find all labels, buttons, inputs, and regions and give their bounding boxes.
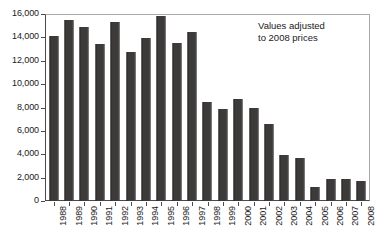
y-axis-tick-label: 16,000 — [0, 9, 39, 18]
bar — [172, 43, 181, 201]
chart-title — [0, 0, 375, 4]
y-axis-tick-label: 12,000 — [0, 56, 39, 65]
bar — [326, 179, 335, 201]
bar-slot — [92, 15, 107, 201]
y-axis-labels: 02,0004,0006,0008,00010,00012,00014,0001… — [0, 14, 39, 201]
bar — [341, 179, 350, 201]
x-axis-tick-label: 1995 — [166, 206, 176, 239]
bar — [126, 52, 135, 201]
x-axis-tick-label: 1991 — [104, 206, 114, 239]
bar — [49, 36, 58, 201]
x-axis-tick-label: 1993 — [135, 206, 145, 239]
x-axis-tick-label: 2008 — [366, 206, 375, 239]
bar-slot — [169, 15, 184, 201]
bar — [218, 109, 227, 201]
bar-slot — [338, 15, 353, 201]
y-axis-tick-label: 14,000 — [0, 32, 39, 41]
bar-slot — [61, 15, 76, 201]
x-axis-tick-label: 2006 — [335, 206, 345, 239]
bar-slot — [154, 15, 169, 201]
x-axis-tick-label: 2004 — [304, 206, 314, 239]
annotation-note: Values adjusted to 2008 prices — [258, 20, 325, 44]
bar-slot — [138, 15, 153, 201]
bar-slot — [46, 15, 61, 201]
x-axis-tick-label: 1997 — [197, 206, 207, 239]
bar-slot — [231, 15, 246, 201]
y-axis-tick-label: 0 — [0, 196, 39, 205]
bar-slot — [354, 15, 369, 201]
bar — [280, 155, 289, 202]
bar-slot — [77, 15, 92, 201]
bar — [188, 32, 197, 201]
bar — [203, 102, 212, 201]
x-axis-tick-label: 1999 — [227, 206, 237, 239]
y-axis-tick-label: 2,000 — [0, 173, 39, 182]
x-axis-tick-label: 2007 — [350, 206, 360, 239]
bar-slot — [184, 15, 199, 201]
bar-slot — [123, 15, 138, 201]
bar-slot — [200, 15, 215, 201]
bar — [234, 99, 243, 201]
x-axis-tick-label: 1988 — [58, 206, 68, 239]
bar-slot — [323, 15, 338, 201]
x-axis-tick-label: 1992 — [120, 206, 130, 239]
bar — [141, 38, 150, 201]
y-axis-tick-label: 6,000 — [0, 126, 39, 135]
x-axis-tick-label: 1989 — [74, 206, 84, 239]
x-axis-tick-label: 1998 — [212, 206, 222, 239]
x-axis-tick-label: 2000 — [243, 206, 253, 239]
x-axis-labels: 1988198919901991199219931994199519961997… — [46, 206, 369, 239]
bar — [95, 44, 104, 201]
x-axis-tick-label: 1994 — [150, 206, 160, 239]
bar — [80, 27, 89, 201]
bar — [249, 108, 258, 201]
x-axis-tick-label: 2003 — [289, 206, 299, 239]
bar — [157, 16, 166, 201]
bar — [65, 20, 74, 201]
bar — [311, 187, 320, 201]
y-axis-tick-label: 4,000 — [0, 149, 39, 158]
y-axis-tick-label: 8,000 — [0, 103, 39, 112]
x-axis-tick-label: 1990 — [89, 206, 99, 239]
x-axis-tick-label: 1996 — [181, 206, 191, 239]
x-axis-tick-label: 2001 — [258, 206, 268, 239]
y-axis-tick-label: 10,000 — [0, 79, 39, 88]
bar — [265, 124, 274, 201]
bar-chart-figure: 02,0004,0006,0008,00010,00012,00014,0001… — [0, 0, 375, 239]
bar — [295, 158, 304, 201]
x-axis-tick-label: 2005 — [320, 206, 330, 239]
y-axis-tick-mark — [41, 201, 45, 202]
bar — [111, 22, 120, 201]
bar — [357, 181, 366, 201]
x-axis-tick-label: 2002 — [274, 206, 284, 239]
bar-slot — [108, 15, 123, 201]
bar-slot — [215, 15, 230, 201]
